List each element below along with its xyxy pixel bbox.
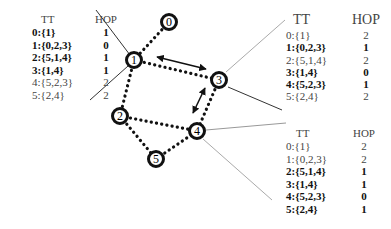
table-row: 5:{2,4}1 bbox=[286, 204, 382, 217]
table-node-4: TTHOP 0:{1}2 1:{0,2,3}2 2:{5,1,4}1 3:{1,… bbox=[286, 127, 382, 216]
svg-text:1: 1 bbox=[131, 53, 137, 67]
hop-header: HOP bbox=[346, 127, 382, 139]
svg-text:2: 2 bbox=[117, 109, 123, 123]
tt-header: TT bbox=[286, 127, 346, 139]
svg-text:5: 5 bbox=[153, 152, 159, 166]
node-5: 5 bbox=[149, 152, 164, 167]
node-1: 1 bbox=[127, 53, 142, 68]
hop-header: HOP bbox=[346, 12, 386, 28]
node-2: 2 bbox=[113, 109, 128, 124]
node-4: 4 bbox=[190, 124, 205, 139]
nodes: 0 1 2 3 4 5 bbox=[113, 15, 227, 167]
table-row: 4:{5,2,3}0 bbox=[286, 191, 382, 204]
tt-header: TT bbox=[32, 13, 92, 25]
svg-text:3: 3 bbox=[216, 73, 222, 87]
double-arrows bbox=[157, 57, 206, 113]
node-0: 0 bbox=[162, 15, 177, 30]
table-row: 2:{5,1,4}1 bbox=[32, 52, 120, 65]
node-3: 3 bbox=[212, 73, 227, 88]
svg-text:4: 4 bbox=[194, 124, 200, 138]
table-row: 0:{1}1 bbox=[32, 27, 120, 40]
table-row: 0:{1}2 bbox=[286, 141, 382, 154]
table-node-3: TTHOP 0:{1}2 1:{0,2,3}1 2:{5,1,4}2 3:{1,… bbox=[286, 12, 386, 104]
table-row: 4:{5,2,3}2 bbox=[32, 77, 120, 90]
table-row: 2:{5,1,4}1 bbox=[286, 166, 382, 179]
table-row: 5:{2,4}2 bbox=[286, 91, 386, 103]
table-row: 1:{0,2,3}1 bbox=[286, 42, 386, 54]
table-row: 5:{2,4}2 bbox=[32, 90, 120, 103]
hop-header: HOP bbox=[92, 13, 120, 25]
svg-text:0: 0 bbox=[166, 15, 172, 29]
tt-header: TT bbox=[286, 12, 346, 28]
table-node-1: TTHOP 0:{1}1 1:{0,2,3}0 2:{5,1,4}1 3:{1,… bbox=[32, 13, 120, 102]
